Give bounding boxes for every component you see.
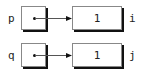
pointer-row-p: p 1 i [0,0,143,37]
value-text: 1 [94,49,101,62]
variable-label: j [129,50,136,61]
value-box: 1 [72,6,122,30]
pointer-row-q: q 1 j [0,37,143,74]
value-box: 1 [72,43,122,67]
variable-label: i [129,13,136,24]
value-text: 1 [94,12,101,25]
